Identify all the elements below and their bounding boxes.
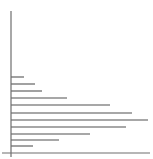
horizontal-bar-chart <box>0 0 153 159</box>
bar-series <box>11 77 148 146</box>
